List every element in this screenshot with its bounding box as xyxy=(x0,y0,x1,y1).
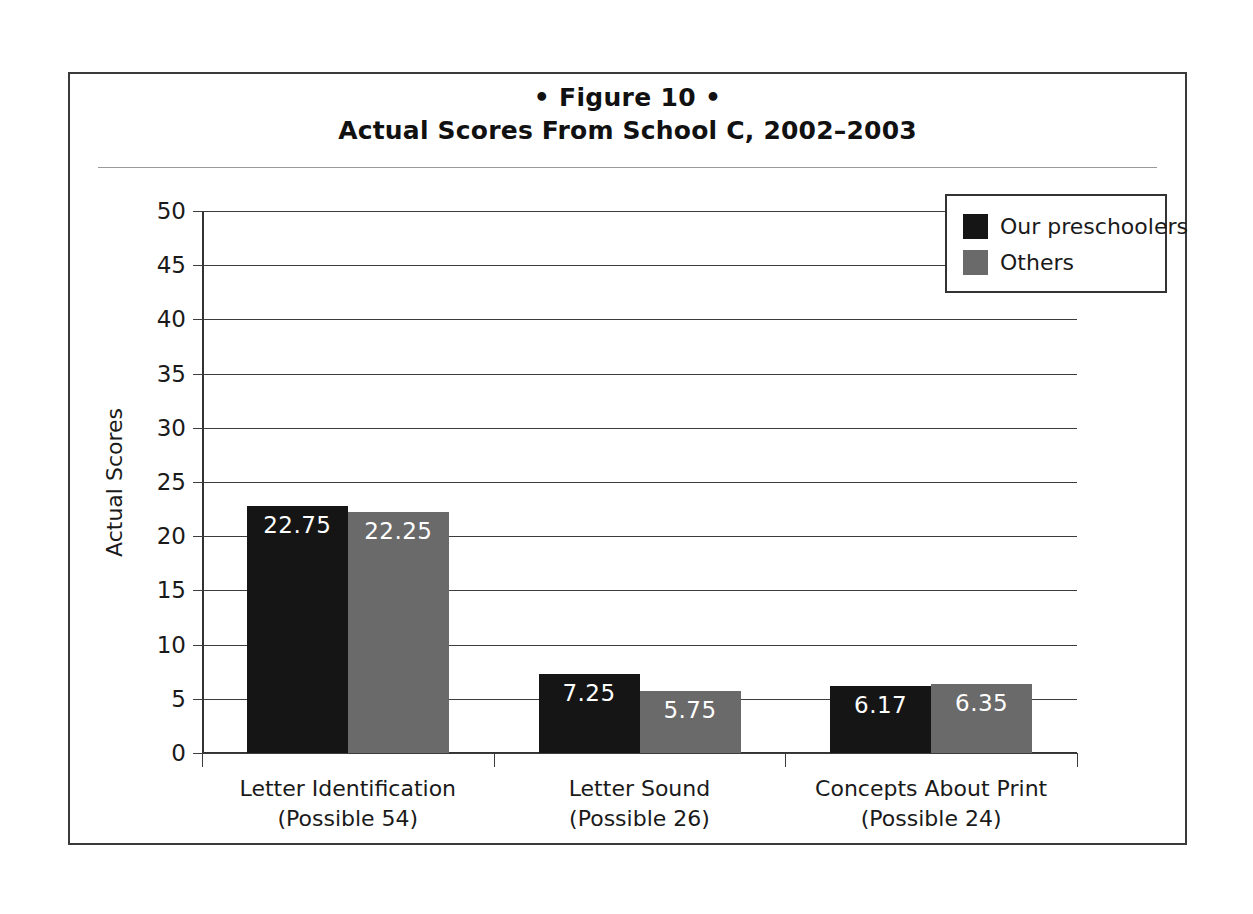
y-tick-mark xyxy=(193,428,202,429)
y-tick-label: 35 xyxy=(157,361,186,387)
y-tick-label: 0 xyxy=(171,740,186,766)
bar: 22.25 xyxy=(348,512,449,753)
figure-number: • Figure 10 • xyxy=(70,82,1185,113)
x-category-sublabel: (Possible 26) xyxy=(494,804,786,834)
bar: 7.25 xyxy=(539,674,640,753)
title-divider xyxy=(98,167,1157,168)
legend-swatch-icon xyxy=(963,250,988,275)
y-axis-title: Actual Scores xyxy=(100,211,128,753)
y-axis-title-label: Actual Scores xyxy=(102,408,127,557)
y-tick-mark xyxy=(193,699,202,700)
bar-value-label: 22.75 xyxy=(247,512,348,538)
y-tick-label: 50 xyxy=(157,198,186,224)
bar-value-label: 5.75 xyxy=(640,697,741,723)
figure-title: Actual Scores From School C, 2002–2003 xyxy=(70,115,1185,146)
y-tick-label: 10 xyxy=(157,632,186,658)
bar-value-label: 6.35 xyxy=(931,690,1032,716)
x-category-name: Letter Sound xyxy=(569,776,711,801)
x-tick-mark xyxy=(785,753,786,767)
x-category-label: Concepts About Print(Possible 24) xyxy=(785,774,1077,833)
figure-title-block: • Figure 10 • Actual Scores From School … xyxy=(70,82,1185,147)
legend-label: Our preschoolers xyxy=(1000,214,1188,239)
x-category-sublabel: (Possible 54) xyxy=(202,804,494,834)
y-tick-label: 30 xyxy=(157,415,186,441)
legend-swatch-icon xyxy=(963,214,988,239)
bar-value-label: 6.17 xyxy=(830,692,931,718)
x-tick-mark xyxy=(202,753,203,767)
figure-frame: • Figure 10 • Actual Scores From School … xyxy=(68,72,1187,845)
y-gridline xyxy=(202,753,1077,754)
bar: 5.75 xyxy=(640,691,741,753)
bar-value-label: 7.25 xyxy=(539,680,640,706)
y-tick-mark xyxy=(193,374,202,375)
x-category-sublabel: (Possible 24) xyxy=(785,804,1077,834)
chart-legend: Our preschoolersOthers xyxy=(945,194,1167,293)
y-tick-mark xyxy=(193,536,202,537)
y-tick-mark xyxy=(193,482,202,483)
legend-label: Others xyxy=(1000,250,1074,275)
x-tick-mark xyxy=(1077,753,1078,767)
y-tick-label: 25 xyxy=(157,469,186,495)
y-tick-label: 5 xyxy=(171,686,186,712)
y-tick-label: 20 xyxy=(157,523,186,549)
y-tick-mark xyxy=(193,319,202,320)
y-tick-mark xyxy=(193,211,202,212)
y-tick-mark xyxy=(193,645,202,646)
bar: 6.35 xyxy=(931,684,1032,753)
y-gridline xyxy=(202,428,1077,429)
x-category-label: Letter Identification(Possible 54) xyxy=(202,774,494,833)
y-tick-label: 45 xyxy=(157,252,186,278)
x-tick-mark xyxy=(494,753,495,767)
legend-item: Our preschoolers xyxy=(963,208,1165,244)
y-tick-mark xyxy=(193,753,202,754)
y-tick-mark xyxy=(193,265,202,266)
bar: 22.75 xyxy=(247,506,348,753)
y-tick-mark xyxy=(193,590,202,591)
legend-item: Others xyxy=(963,244,1165,280)
bar-value-label: 22.25 xyxy=(348,518,449,544)
y-gridline xyxy=(202,319,1077,320)
y-tick-label: 40 xyxy=(157,306,186,332)
x-category-label: Letter Sound(Possible 26) xyxy=(494,774,786,833)
x-category-name: Concepts About Print xyxy=(815,776,1047,801)
y-gridline xyxy=(202,374,1077,375)
x-category-name: Letter Identification xyxy=(240,776,456,801)
bar: 6.17 xyxy=(830,686,931,753)
y-gridline xyxy=(202,482,1077,483)
y-tick-label: 15 xyxy=(157,577,186,603)
